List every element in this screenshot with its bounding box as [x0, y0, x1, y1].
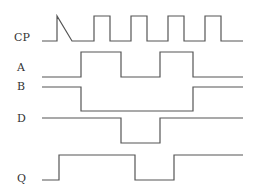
- waveform-cp: [42, 16, 243, 41]
- waveforms: [0, 0, 257, 191]
- waveform-b: [42, 87, 243, 111]
- waveform-q: [42, 155, 243, 180]
- waveform-a: [42, 52, 243, 77]
- waveform-d: [42, 118, 243, 143]
- timing-diagram: CP A B D Q: [0, 0, 257, 191]
